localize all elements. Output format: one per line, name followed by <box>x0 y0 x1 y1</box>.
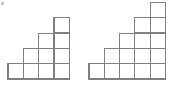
left-staircase-column-2 <box>23 48 38 79</box>
unit-square <box>120 64 135 79</box>
right-staircase-column-2 <box>104 48 119 79</box>
unit-square <box>150 33 165 48</box>
right-staircase-column-1 <box>89 64 104 79</box>
staircase-svg <box>0 0 177 88</box>
unit-square <box>54 64 69 79</box>
right-staircase-column-5 <box>150 3 165 80</box>
unit-square <box>135 33 150 48</box>
unit-square <box>150 64 165 79</box>
left-staircase-column-4 <box>54 18 69 79</box>
unit-square <box>23 64 38 79</box>
unit-square <box>150 18 165 33</box>
left-staircase-column-3 <box>39 33 54 79</box>
unit-square <box>120 48 135 63</box>
right-staircase-column-4 <box>135 18 150 79</box>
unit-square <box>135 18 150 33</box>
unit-square <box>39 33 54 48</box>
unit-square <box>150 48 165 63</box>
unit-square <box>54 48 69 63</box>
unit-square <box>23 48 38 63</box>
unit-square <box>135 48 150 63</box>
unit-square <box>39 64 54 79</box>
right-staircase <box>89 3 166 80</box>
unit-square <box>8 64 23 79</box>
unit-square <box>150 3 165 18</box>
left-staircase <box>8 18 69 79</box>
unit-square <box>104 64 119 79</box>
staircase-figure <box>0 0 177 88</box>
unit-square <box>135 64 150 79</box>
unit-square <box>120 33 135 48</box>
unit-square <box>39 48 54 63</box>
unit-square <box>54 18 69 33</box>
unit-square <box>89 64 104 79</box>
left-staircase-column-1 <box>8 64 23 79</box>
right-staircase-column-3 <box>120 33 135 79</box>
unit-square <box>104 48 119 63</box>
unit-square <box>54 33 69 48</box>
